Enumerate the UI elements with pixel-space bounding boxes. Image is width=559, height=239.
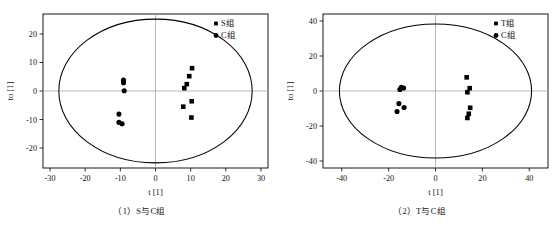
svg-text:-20: -20 — [80, 174, 91, 183]
scatter-plot-1: -30-20-100102030-20-1001020t [1]to [1]S组… — [0, 0, 279, 200]
scatter-plot-2: -40-2002040-40-2002040t [1]to [1]T组C组 — [280, 0, 559, 200]
svg-text:10: 10 — [187, 174, 195, 183]
y-axis-ticks: -20-1001020 — [26, 30, 43, 153]
data-point-circle — [397, 87, 402, 92]
data-point-square — [189, 115, 194, 120]
data-point-circle — [122, 88, 127, 93]
x-axis-label: t [1] — [428, 187, 443, 197]
svg-text:20: 20 — [29, 30, 37, 39]
legend-marker-square — [214, 22, 218, 26]
svg-text:-10: -10 — [26, 116, 37, 125]
svg-text:-40: -40 — [306, 157, 317, 166]
svg-text:10: 10 — [29, 58, 37, 67]
legend-label: C组 — [221, 30, 236, 40]
svg-text:0: 0 — [33, 87, 37, 96]
svg-text:-20: -20 — [383, 174, 394, 183]
data-point-circle — [402, 105, 407, 110]
svg-text:30: 30 — [257, 174, 265, 183]
svg-text:20: 20 — [309, 52, 317, 61]
x-axis-ticks: -40-2002040 — [336, 168, 533, 183]
chart-panel-1: -30-20-100102030-20-1001020t [1]to [1]S组… — [0, 0, 279, 239]
y-axis-ticks: -40-2002040 — [306, 17, 323, 166]
svg-text:-20: -20 — [26, 144, 37, 153]
data-point-square — [190, 66, 195, 71]
svg-text:40: 40 — [525, 174, 533, 183]
data-point-circle — [116, 112, 121, 117]
panel-caption-2: （2）T与C组 — [280, 204, 559, 216]
data-point-square — [181, 104, 186, 109]
chart-panel-2: -40-2002040-40-2002040t [1]to [1]T组C组 （2… — [280, 0, 559, 239]
y-axis-label: to [1] — [285, 81, 295, 100]
svg-text:40: 40 — [309, 17, 317, 26]
svg-text:0: 0 — [313, 87, 317, 96]
data-point-square — [468, 106, 473, 111]
data-point-circle — [395, 109, 400, 114]
svg-text:-40: -40 — [336, 174, 347, 183]
data-point-square — [465, 116, 470, 121]
data-point-square — [187, 74, 192, 79]
x-axis-label: t [1] — [148, 187, 163, 197]
data-point-square — [467, 86, 472, 91]
svg-text:-10: -10 — [115, 174, 126, 183]
data-point-square — [464, 75, 469, 80]
x-axis-ticks: -30-20-100102030 — [45, 168, 265, 183]
legend-marker-square — [494, 22, 498, 26]
figure-sheet: -30-20-100102030-20-1001020t [1]to [1]S组… — [0, 0, 559, 239]
svg-text:0: 0 — [433, 174, 437, 183]
data-point-circle — [120, 121, 125, 126]
legend-marker-circle — [214, 33, 219, 38]
data-point-square — [465, 90, 470, 95]
data-point-square — [189, 99, 194, 104]
legend-label: C组 — [501, 30, 516, 40]
data-point-circle — [396, 101, 401, 106]
data-point-square — [466, 111, 471, 116]
legend-marker-circle — [494, 33, 499, 38]
svg-text:-30: -30 — [45, 174, 56, 183]
legend-label: T组 — [501, 18, 515, 28]
svg-text:20: 20 — [478, 174, 486, 183]
legend-label: S组 — [221, 18, 235, 28]
data-point-square — [184, 82, 189, 87]
data-point-circle — [121, 80, 126, 85]
svg-text:-20: -20 — [306, 122, 317, 131]
panel-caption-1: （1）S与C组 — [0, 204, 279, 216]
svg-text:0: 0 — [153, 174, 157, 183]
y-axis-label: to [1] — [5, 81, 15, 100]
data-point-square — [182, 86, 187, 91]
svg-text:20: 20 — [222, 174, 230, 183]
